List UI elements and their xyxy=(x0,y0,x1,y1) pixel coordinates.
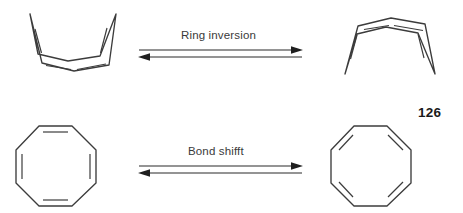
reaction-label-bond-shift: Bond shifft xyxy=(188,145,244,157)
octagon-outline xyxy=(16,126,96,206)
figure-canvas: Ring inversion Bond shifft 126 xyxy=(0,0,463,213)
structure-cot-planar-diagonal xyxy=(329,124,417,208)
double-bond-lower-left xyxy=(339,182,353,197)
equilibrium-arrows-bond-shift xyxy=(133,160,308,182)
double-bond-upper-right xyxy=(388,135,403,150)
structure-cot-planar-axis xyxy=(14,124,102,208)
compound-number-label: 126 xyxy=(418,105,441,120)
reaction-label-ring-inversion: Ring inversion xyxy=(181,29,256,41)
structure-cot-tub-down xyxy=(325,8,441,82)
equilibrium-arrows-ring-inversion xyxy=(133,44,308,66)
double-bond-bottom-left xyxy=(46,66,71,70)
arrow-forward-head xyxy=(291,46,303,54)
double-bond-lower-right xyxy=(388,182,403,197)
arrow-forward-head xyxy=(291,162,303,170)
octagon-outline xyxy=(331,126,411,206)
arrow-reverse-head xyxy=(138,53,150,61)
arrow-reverse-head xyxy=(138,169,150,177)
structure-cot-tub-up xyxy=(12,8,124,82)
double-bond-left-wing xyxy=(351,35,358,59)
double-bond-upper-left xyxy=(339,135,353,150)
